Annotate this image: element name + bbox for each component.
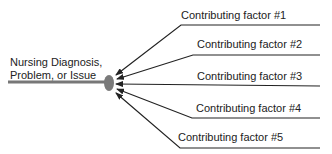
factor-label-3: Contributing factor #3 <box>197 70 302 83</box>
factor-label-1: Contributing factor #1 <box>181 9 286 22</box>
central-label-line2: Problem, or Issue <box>10 69 96 82</box>
factor-label-5: Contributing factor #5 <box>178 131 283 144</box>
central-label-line1: Nursing Diagnosis, <box>10 56 102 69</box>
factor-line-3 <box>116 84 320 86</box>
factor-label-4: Contributing factor #4 <box>196 102 301 115</box>
central-node <box>104 75 114 91</box>
factor-label-2: Contributing factor #2 <box>197 38 302 51</box>
